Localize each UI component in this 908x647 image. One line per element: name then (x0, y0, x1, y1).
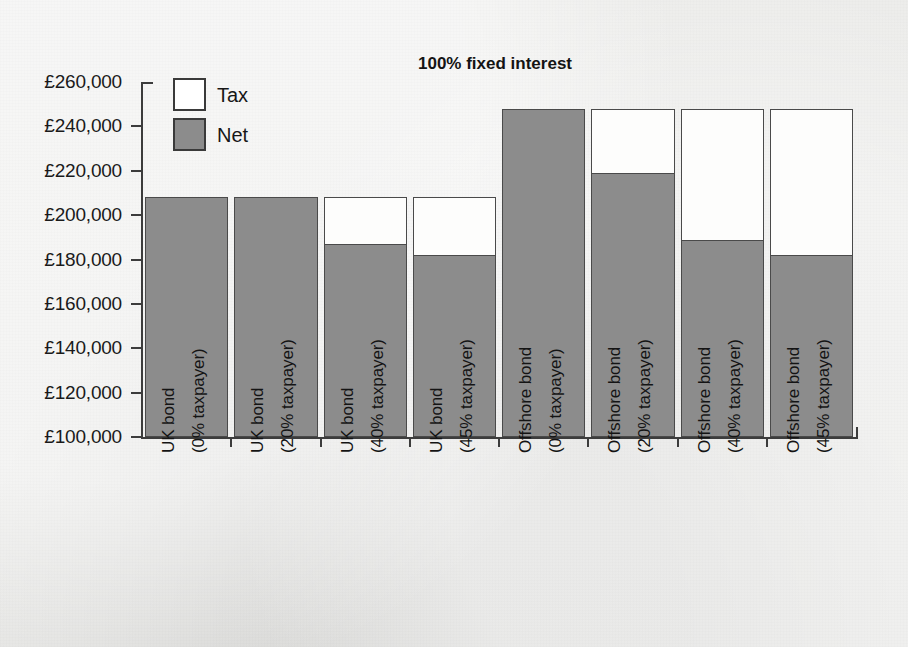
y-axis-tick (131, 436, 141, 438)
x-axis-tick (587, 438, 589, 447)
legend-label-net: Net (217, 123, 248, 146)
y-axis-tick (131, 125, 141, 127)
x-axis-tick (498, 438, 500, 447)
axis-end-cap (141, 82, 153, 84)
y-axis-tick (131, 259, 141, 261)
bar-segment-net (413, 255, 496, 437)
y-axis-label: £220,000 (0, 160, 122, 182)
y-axis-tick (131, 392, 141, 394)
bar-segment-net (502, 109, 585, 437)
y-axis-tick (131, 303, 141, 305)
bar-segment-tax (324, 197, 407, 245)
x-axis-category-label: Offshore bond (605, 347, 625, 453)
bar-segment-net (324, 244, 407, 437)
x-axis-category-label: UK bond (338, 388, 358, 453)
x-axis-category-label: UK bond (159, 388, 179, 453)
x-axis-category-label: UK bond (427, 388, 447, 453)
bar-segment-tax (591, 109, 674, 174)
x-axis-category-label: Offshore bond (784, 347, 804, 453)
y-axis-label: £100,000 (0, 426, 122, 448)
bar-segment-net (770, 255, 853, 437)
x-axis-category-label: Offshore bond (516, 347, 536, 453)
x-axis-tick (320, 438, 322, 447)
legend-label-tax: Tax (217, 83, 248, 106)
x-axis-category-label: (40% taxpayer) (368, 339, 388, 453)
axis-end-cap (141, 427, 143, 439)
x-axis-category-label: (45% taxpayer) (814, 339, 834, 453)
x-axis-category-label: (0% taxpayer) (189, 348, 209, 453)
bar-segment-tax (413, 197, 496, 256)
y-axis-label: £160,000 (0, 293, 122, 315)
y-axis-tick (131, 170, 141, 172)
x-axis-tick (677, 438, 679, 447)
x-axis-category-label: (40% taxpayer) (725, 339, 745, 453)
bar-segment-net (145, 197, 228, 437)
x-axis-tick (409, 438, 411, 447)
x-axis-category-label: Offshore bond (695, 347, 715, 453)
bar-segment-tax (770, 109, 853, 256)
x-axis-category-label: (20% taxpayer) (278, 339, 298, 453)
x-axis-category-label: (20% taxpayer) (635, 339, 655, 453)
y-axis-label: £200,000 (0, 204, 122, 226)
legend-swatch-tax (173, 78, 206, 111)
bar-segment-net (681, 240, 764, 437)
bar-segment-net (234, 197, 317, 437)
legend-swatch-net (173, 118, 206, 151)
x-axis-tick (766, 438, 768, 447)
y-axis-tick (131, 347, 141, 349)
y-axis-label: £260,000 (0, 71, 122, 93)
y-axis-line (141, 82, 143, 439)
y-axis-label: £240,000 (0, 115, 122, 137)
x-axis-category-label: UK bond (248, 388, 268, 453)
y-axis-label: £140,000 (0, 337, 122, 359)
x-axis-category-label: (0% taxpayer) (546, 348, 566, 453)
y-axis-tick (131, 214, 141, 216)
bar-segment-net (591, 173, 674, 437)
y-axis-label: £120,000 (0, 382, 122, 404)
chart-title: 100% fixed interest (418, 54, 572, 74)
bar-segment-tax (681, 109, 764, 241)
x-axis-category-label: (45% taxpayer) (457, 339, 477, 453)
axis-end-cap (856, 427, 858, 439)
stacked-bar-chart: £260,000£240,000£220,000£200,000£180,000… (0, 0, 908, 647)
y-axis-label: £180,000 (0, 249, 122, 271)
x-axis-tick (230, 438, 232, 447)
